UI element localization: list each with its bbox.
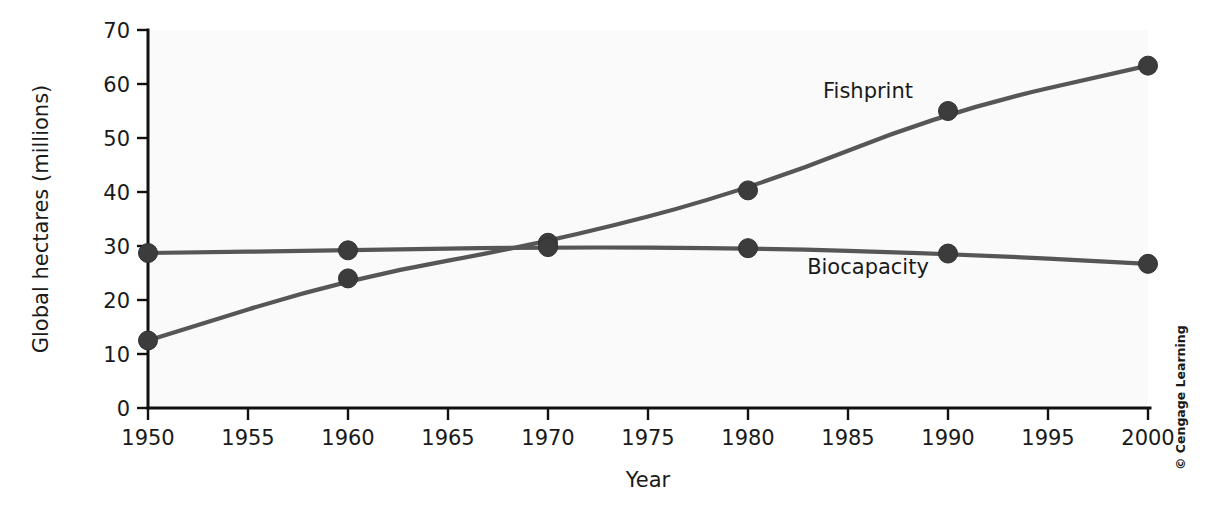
series-label-fishprint: Fishprint [823, 79, 913, 103]
y-tick-label: 10 [103, 343, 130, 367]
y-axis-ticks: 010203040506070 [103, 19, 148, 421]
data-point-marker [139, 331, 158, 350]
x-tick-label: 1960 [321, 426, 374, 450]
x-tick-label: 1980 [721, 426, 774, 450]
data-point-marker [139, 244, 158, 263]
x-axis-title: Year [625, 468, 671, 492]
y-axis-title: Global hectares (millions) [29, 85, 53, 354]
x-tick-label: 1985 [821, 426, 874, 450]
y-tick-label: 50 [103, 127, 130, 151]
y-tick-label: 60 [103, 73, 130, 97]
series-label-biocapacity: Biocapacity [807, 255, 929, 279]
data-point-marker [939, 102, 958, 121]
x-tick-label: 1990 [921, 426, 974, 450]
data-point-marker [739, 181, 758, 200]
data-point-marker [939, 244, 958, 263]
data-point-marker [339, 241, 358, 260]
x-tick-label: 1975 [621, 426, 674, 450]
data-point-marker [339, 269, 358, 288]
data-point-marker [739, 239, 758, 258]
data-point-marker [1139, 254, 1158, 273]
x-tick-label: 1965 [421, 426, 474, 450]
x-tick-label: 1955 [221, 426, 274, 450]
y-tick-label: 0 [117, 397, 130, 421]
copyright-credit: © Cengage Learning [1173, 325, 1188, 470]
figure-container: 010203040506070 195019551960196519701975… [0, 0, 1213, 512]
x-tick-label: 1995 [1021, 426, 1074, 450]
y-tick-label: 30 [103, 235, 130, 259]
x-tick-label: 2000 [1121, 426, 1174, 450]
y-tick-label: 40 [103, 181, 130, 205]
plot-area-background [148, 30, 1148, 408]
x-axis-ticks: 1950195519601965197019751980198519901995… [121, 408, 1174, 450]
x-tick-label: 1950 [121, 426, 174, 450]
data-point-marker [539, 238, 558, 257]
data-point-marker [1139, 56, 1158, 75]
x-tick-label: 1970 [521, 426, 574, 450]
y-tick-label: 70 [103, 19, 130, 43]
line-chart: 010203040506070 195019551960196519701975… [0, 0, 1213, 512]
y-tick-label: 20 [103, 289, 130, 313]
